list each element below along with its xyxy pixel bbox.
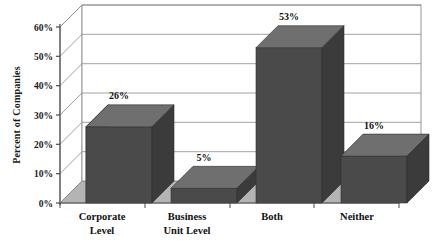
y-tick-label-0: 0% bbox=[39, 199, 53, 209]
category-label-corporate-line2: Level bbox=[90, 225, 115, 236]
bar-1-front-face bbox=[86, 127, 152, 203]
category-label-neither: Neither bbox=[340, 211, 374, 222]
y-tick-label-60: 60% bbox=[34, 23, 53, 33]
y-tick-label-20: 20% bbox=[34, 140, 53, 150]
bar-3-front-face bbox=[256, 48, 322, 203]
category-label-corporate-line1: Corporate bbox=[79, 211, 126, 222]
bar-4-value-label: 16% bbox=[364, 120, 384, 131]
category-label-both: Both bbox=[261, 211, 283, 222]
category-label-business-line2: Unit Level bbox=[164, 225, 211, 236]
bar-1-value-label: 26% bbox=[109, 90, 129, 101]
y-tick-label-30: 30% bbox=[34, 111, 53, 121]
x-category-labels: Corporate Level Business Unit Level Both… bbox=[79, 211, 375, 236]
bar-chart-figure: 60% 50% 40% 30% 20% 10% 0% Percent of Co… bbox=[0, 0, 439, 241]
bar-both: 53% bbox=[256, 11, 344, 203]
bar-2-value-label: 5% bbox=[197, 152, 212, 163]
y-tick-label-10: 10% bbox=[34, 169, 53, 179]
y-tick-labels: 60% 50% 40% 30% 20% 10% 0% bbox=[34, 23, 53, 209]
x-axis bbox=[60, 203, 399, 208]
category-label-business-line1: Business bbox=[168, 211, 207, 222]
y-axis-title: Percent of Companies bbox=[11, 66, 22, 164]
chart-canvas: 60% 50% 40% 30% 20% 10% 0% Percent of Co… bbox=[0, 0, 439, 241]
bar-2-front-face bbox=[171, 188, 237, 203]
y-axis bbox=[56, 24, 60, 205]
y-tick-label-50: 50% bbox=[34, 52, 53, 62]
bar-3-value-label: 53% bbox=[279, 11, 299, 22]
bar-4-front-face bbox=[341, 156, 407, 203]
y-tick-label-40: 40% bbox=[34, 81, 53, 91]
